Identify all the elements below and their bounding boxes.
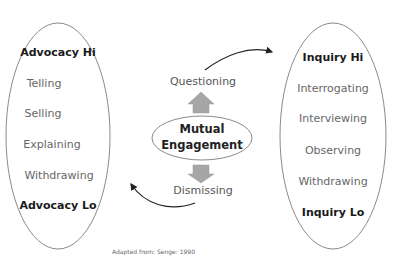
interviewing-label: Interviewing [299,112,367,125]
selling-label: Selling [25,107,62,120]
questioning-label: Questioning [170,75,236,88]
dismissing-label: Dismissing [173,184,233,197]
interrogating-label: Interrogating [297,82,369,95]
telling-label: Telling [27,77,62,90]
advocacy-lo-label: Advocacy Lo [19,199,96,212]
withdrawing-left-label: Withdrawing [24,169,93,182]
curved-arrow-to-inquiry-icon [205,50,272,70]
up-block-arrow-icon [188,92,214,113]
mutual-line: Mutual [161,121,243,137]
explaining-label: Explaining [23,138,80,151]
advocacy-hi-label: Advocacy Hi [20,46,96,59]
down-block-arrow-icon [188,165,214,183]
source-caption: Adapted from: Senge: 1990 [112,248,195,255]
withdrawing-right-label: Withdrawing [298,175,367,188]
observing-label: Observing [305,144,361,157]
engagement-line: Engagement [161,137,243,153]
inquiry-hi-label: Inquiry Hi [303,51,364,64]
inquiry-lo-label: Inquiry Lo [302,206,364,219]
mutual-engagement-label: Mutual Engagement [161,121,243,153]
